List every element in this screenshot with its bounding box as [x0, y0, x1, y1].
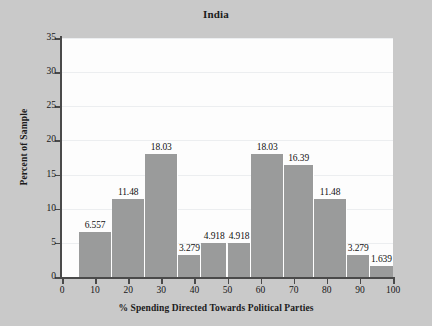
x-tick-mark — [128, 279, 130, 284]
y-tick-label: 35 — [26, 32, 56, 42]
histogram-bar — [314, 199, 347, 277]
bar-value-label: 3.279 — [341, 243, 375, 253]
x-tick-mark — [360, 279, 362, 284]
x-tick-mark — [95, 279, 97, 284]
histogram-bar — [178, 255, 201, 277]
x-tick-mark — [228, 279, 230, 284]
x-tick-mark — [393, 279, 395, 284]
bar-value-label: 16.39 — [282, 153, 316, 163]
bar-value-label: 4.918 — [222, 231, 256, 241]
x-tick-mark — [62, 279, 64, 284]
bar-value-label: 18.03 — [144, 142, 178, 152]
bar-value-label: 11.48 — [111, 187, 145, 197]
x-tick-label: 40 — [179, 285, 209, 295]
gridline — [62, 175, 393, 176]
y-tick-label: 10 — [26, 203, 56, 213]
histogram-bar — [251, 154, 284, 277]
y-axis-line — [60, 36, 62, 279]
histogram-bar — [79, 232, 112, 277]
y-tick-label: 5 — [26, 237, 56, 247]
bar-value-label: 6.557 — [78, 220, 112, 230]
x-tick-label: 50 — [213, 285, 243, 295]
x-tick-label: 100 — [378, 285, 408, 295]
histogram-bar — [284, 165, 314, 277]
x-tick-label: 60 — [246, 285, 276, 295]
chart-figure: India 05101520253035 0102030405060708090… — [0, 0, 432, 326]
bar-value-label: 18.03 — [250, 142, 284, 152]
x-tick-label: 70 — [279, 285, 309, 295]
gridline — [62, 72, 393, 73]
x-tick-label: 20 — [113, 285, 143, 295]
x-tick-label: 80 — [312, 285, 342, 295]
histogram-bar — [228, 243, 251, 277]
bar-value-label: 3.279 — [172, 243, 206, 253]
x-tick-label: 0 — [47, 285, 77, 295]
y-tick-label: 0 — [26, 271, 56, 281]
histogram-bar — [370, 266, 393, 277]
x-tick-mark — [261, 279, 263, 284]
y-axis-title: Percent of Sample — [19, 82, 29, 212]
x-tick-mark — [194, 279, 196, 284]
x-tick-mark — [161, 279, 163, 284]
gridline — [62, 140, 393, 141]
histogram-bar — [145, 154, 178, 277]
histogram-bar — [112, 199, 145, 277]
x-tick-mark — [294, 279, 296, 284]
gridline — [62, 38, 393, 39]
y-tick-label: 20 — [26, 134, 56, 144]
x-tick-label: 10 — [80, 285, 110, 295]
x-tick-label: 90 — [345, 285, 375, 295]
y-tick-label: 30 — [26, 66, 56, 76]
x-tick-label: 30 — [146, 285, 176, 295]
chart-title: India — [0, 8, 432, 20]
x-axis-title: % Spending Directed Towards Political Pa… — [0, 303, 432, 313]
bar-value-label: 11.48 — [313, 187, 347, 197]
y-tick-label: 15 — [26, 169, 56, 179]
x-tick-mark — [327, 279, 329, 284]
gridline — [62, 106, 393, 107]
bar-value-label: 1.639 — [364, 254, 398, 264]
y-tick-label: 25 — [26, 100, 56, 110]
